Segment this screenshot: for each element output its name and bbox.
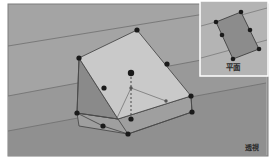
vertex-left-mid — [101, 85, 106, 90]
vertex-center-bottom — [128, 116, 133, 121]
vertex-base-right — [189, 109, 194, 114]
inset-vertex-bottom-right — [257, 47, 262, 52]
vertex-right-upper — [164, 61, 169, 66]
diagram-canvas: 透視 平面 — [0, 0, 274, 164]
plan-view-inset-panel: 平面 — [200, 1, 268, 76]
inset-vertex-mid-right — [248, 28, 253, 33]
vertex-base-mid-left — [100, 123, 105, 128]
vertex-right-lower — [188, 93, 193, 98]
inset-vertex-bottom-left — [231, 57, 236, 62]
marker-center-node — [129, 86, 132, 89]
perspective-view-label: 透視 — [245, 143, 259, 152]
vertex-base-bottom — [125, 131, 130, 136]
inset-vertex-mid-left — [220, 33, 225, 38]
vertex-center-top — [128, 70, 134, 76]
figure-root: 透視 平面 — [0, 0, 274, 164]
inset-vertex-top-right — [239, 10, 244, 15]
vertex-left-upper — [76, 55, 81, 60]
inset-vertex-top-left — [214, 20, 219, 25]
plan-view-label: 平面 — [226, 63, 241, 72]
vertex-top-apex — [134, 27, 139, 32]
marker-leader-right-end — [164, 99, 167, 102]
vertex-base-left — [74, 110, 79, 115]
